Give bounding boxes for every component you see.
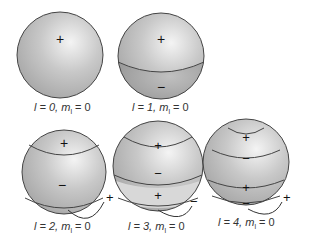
label-l2: l = 2, ml = 0 <box>34 220 91 234</box>
label-l1: l = 1, ml = 0 <box>132 101 189 115</box>
svg-text:+: + <box>154 188 162 203</box>
sphere-l4: + − + − + <box>203 119 291 214</box>
svg-text:+: + <box>157 31 165 47</box>
svg-text:+: + <box>154 138 162 153</box>
label-l0: l = 0, ml = 0 <box>34 101 91 115</box>
sphere-l0: + <box>17 12 103 98</box>
sphere-l3: + − + − <box>113 121 203 217</box>
label-l4: l = 4, ml = 0 <box>218 216 275 230</box>
plus-sign: + <box>56 31 64 47</box>
svg-text:−: − <box>157 79 165 95</box>
svg-text:−: − <box>242 196 250 211</box>
svg-text:+: + <box>106 190 114 205</box>
svg-text:+: + <box>283 190 291 205</box>
sphere-l1: + − <box>117 13 205 110</box>
svg-text:−: − <box>190 194 198 209</box>
svg-text:+: + <box>60 135 68 151</box>
harmonics-diagram: + + − + − + + − <box>0 0 310 244</box>
svg-text:+: + <box>242 130 250 145</box>
svg-text:−: − <box>242 151 250 166</box>
label-l3: l = 3, ml = 0 <box>128 220 185 234</box>
sphere-l2: + − + <box>22 130 114 220</box>
svg-text:+: + <box>242 180 250 195</box>
svg-text:−: − <box>58 177 66 193</box>
svg-text:−: − <box>154 166 162 181</box>
